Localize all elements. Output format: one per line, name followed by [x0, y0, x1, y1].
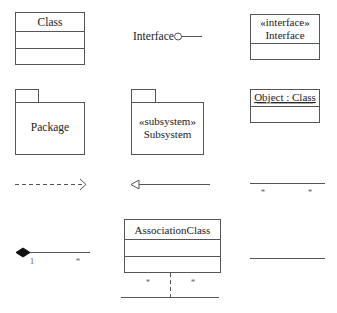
- uml-notation-diagram: Class Interface «interface» Interface Pa…: [0, 0, 337, 313]
- filled-diamond-icon: [16, 248, 30, 257]
- interface-circle-icon: [175, 33, 182, 40]
- object-name: Object : Class: [254, 91, 316, 103]
- composition-right-multiplicity: *: [76, 256, 81, 266]
- interface-box-element: «interface» Interface: [251, 15, 320, 60]
- hollow-triangle-icon: [131, 180, 139, 189]
- subsystem-stereotype: «subsystem»: [139, 115, 196, 127]
- interface-name: Interface: [265, 29, 304, 41]
- object-element: Object : Class: [251, 90, 320, 123]
- left-multiplicity: *: [261, 187, 266, 197]
- package-element: Package: [16, 90, 85, 155]
- interface-lollipop: Interface: [133, 30, 202, 42]
- association-many-many: * *: [250, 184, 325, 198]
- composition-left-multiplicity: 1: [30, 256, 35, 266]
- package-name: Package: [31, 121, 69, 134]
- class-element: Class: [16, 13, 85, 65]
- subsystem-name: Subsystem: [144, 128, 192, 140]
- generalization-arrow: [131, 180, 210, 189]
- interface-lollipop-label: Interface: [133, 30, 174, 42]
- class-name: Class: [38, 16, 63, 28]
- association-class-left-multiplicity: *: [146, 277, 151, 287]
- interface-stereotype: «interface»: [260, 16, 309, 28]
- association-class-right-multiplicity: *: [191, 277, 196, 287]
- dependency-arrow: [15, 179, 86, 190]
- association-class-element: AssociationClass * *: [121, 220, 221, 298]
- subsystem-element: «subsystem» Subsystem: [132, 90, 204, 155]
- composition-association: 1 *: [16, 248, 90, 266]
- association-class-name: AssociationClass: [135, 224, 211, 236]
- right-multiplicity: *: [308, 187, 313, 197]
